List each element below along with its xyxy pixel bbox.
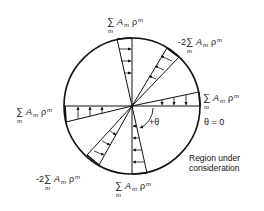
svg-text:ρ: ρ: [228, 93, 233, 103]
svg-text:A: A: [25, 107, 32, 117]
label-upper-right-sum: -2 ∑ m A m ρ m: [178, 36, 222, 54]
svg-text:m: m: [61, 179, 66, 185]
svg-text:m: m: [124, 22, 129, 28]
svg-text:∑: ∑: [44, 173, 51, 184]
circular-region-diagram: +θ θ = 0 Region under consideration ∑ m …: [0, 0, 264, 211]
svg-text:m: m: [132, 186, 137, 192]
svg-text:m: m: [17, 118, 22, 124]
svg-text:∑: ∑: [115, 180, 122, 191]
svg-text:ρ: ρ: [211, 37, 216, 47]
svg-text:m: m: [220, 98, 225, 104]
svg-text:A: A: [212, 93, 219, 103]
svg-text:A: A: [53, 174, 60, 184]
svg-text:A: A: [195, 37, 202, 47]
svg-text:m: m: [33, 112, 38, 118]
angle-label: +θ: [149, 117, 159, 127]
svg-text:m: m: [45, 185, 50, 191]
svg-text:∑: ∑: [16, 106, 23, 117]
theta-zero-label: θ = 0: [204, 117, 224, 127]
svg-text:m: m: [234, 93, 239, 99]
svg-text:m: m: [203, 42, 208, 48]
svg-text:A: A: [116, 17, 123, 27]
region-label-line1: Region under: [189, 153, 240, 163]
svg-text:ρ: ρ: [41, 107, 46, 117]
label-left-sum: ∑ m A m ρ m: [16, 106, 52, 124]
svg-text:∑: ∑: [107, 16, 114, 27]
region-label-line2: consideration: [189, 163, 240, 173]
load-wedge-left: [65, 106, 132, 122]
svg-text:m: m: [187, 48, 192, 54]
svg-text:ρ: ρ: [69, 174, 74, 184]
svg-text:m: m: [47, 107, 52, 113]
svg-text:ρ: ρ: [140, 181, 145, 191]
svg-text:m: m: [75, 174, 80, 180]
svg-text:m: m: [138, 17, 143, 23]
label-top-sum: ∑ m A m ρ m: [107, 16, 143, 34]
svg-text:m: m: [108, 28, 113, 34]
load-wedge-right: [132, 92, 200, 106]
svg-text:m: m: [146, 181, 151, 187]
label-right-sum: ∑ m A m ρ m: [203, 92, 239, 110]
svg-text:m: m: [217, 37, 222, 43]
svg-text:∑: ∑: [203, 92, 210, 103]
svg-text:m: m: [116, 192, 121, 198]
load-wedge-bottom: [132, 106, 147, 174]
svg-text:A: A: [124, 181, 131, 191]
label-lower-left-sum: -2 ∑ m A m ρ m: [36, 173, 80, 191]
load-wedge-top: [117, 38, 132, 106]
svg-text:-2: -2: [36, 174, 44, 184]
label-bottom-sum: ∑ m A m ρ m: [115, 180, 151, 198]
svg-text:m: m: [204, 104, 209, 110]
svg-text:∑: ∑: [186, 36, 193, 47]
svg-text:ρ: ρ: [132, 17, 137, 27]
svg-text:-2: -2: [178, 37, 186, 47]
